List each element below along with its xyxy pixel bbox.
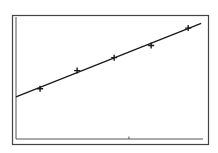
window-frame: [13, 16, 209, 145]
regression-line: [16, 23, 201, 97]
plot-series: [16, 23, 201, 97]
scatter-plot: [0, 0, 218, 153]
